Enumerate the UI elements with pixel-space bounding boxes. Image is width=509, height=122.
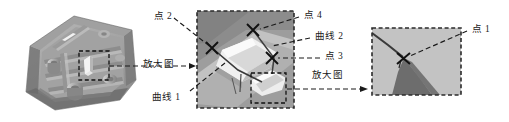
panel-zoom-1 (197, 11, 294, 108)
label-point-3: 点 3 (325, 52, 343, 62)
label-point-1: 点 1 (472, 25, 490, 35)
label-enlarged-view-middle: 放大图 (312, 71, 343, 81)
label-enlarged-view-left: 放大图 (143, 60, 174, 70)
label-point-2: 点 2 (154, 12, 172, 22)
panel-part-3d (26, 16, 136, 110)
label-point-4: 点 4 (304, 11, 322, 21)
label-curve-1: 曲线 1 (152, 93, 180, 103)
panel-zoom-2 (372, 28, 461, 95)
figure-graphics (0, 0, 509, 122)
technical-figure: 点 2 放大图 曲线 1 点 4 曲线 2 点 3 放大图 点 1 (0, 0, 509, 122)
label-curve-2: 曲线 2 (315, 32, 343, 42)
